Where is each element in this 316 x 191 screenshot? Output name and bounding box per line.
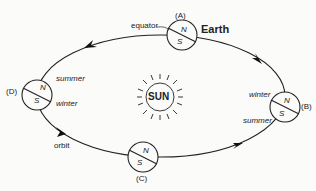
- earth-d-south: S: [34, 97, 39, 105]
- earth-d-icon: [22, 80, 52, 110]
- earth-d-north: N: [40, 84, 46, 92]
- earth-d-north-season: summer: [56, 75, 85, 83]
- orbit-arrow-top-right: [252, 53, 262, 64]
- position-c-label: (C): [136, 175, 147, 183]
- orbit-label: orbit: [54, 142, 70, 150]
- earth-d-south-season: winter: [56, 100, 77, 108]
- equator-label: equator: [131, 22, 158, 30]
- earth-a-south: S: [177, 38, 182, 46]
- earth-b-north-season: winter: [249, 91, 270, 99]
- earth-b-south-season: summer: [243, 117, 272, 125]
- position-a-label: (A): [175, 12, 186, 20]
- orbit-arrow-bottom-left: [56, 127, 66, 137]
- equator-pointer: [157, 27, 169, 30]
- sun-label: SUN: [148, 92, 169, 102]
- position-b-label: (B): [301, 103, 312, 111]
- earth-b-north: N: [284, 97, 290, 105]
- earth-c-south: S: [137, 159, 142, 167]
- position-d-label: (D): [6, 88, 17, 96]
- orbit-arrow-bottom-right: [233, 143, 243, 149]
- earth-c-north: N: [143, 147, 149, 155]
- earth-a-north: N: [181, 26, 187, 34]
- earth-label: Earth: [201, 24, 229, 35]
- earth-b-south: S: [279, 110, 284, 118]
